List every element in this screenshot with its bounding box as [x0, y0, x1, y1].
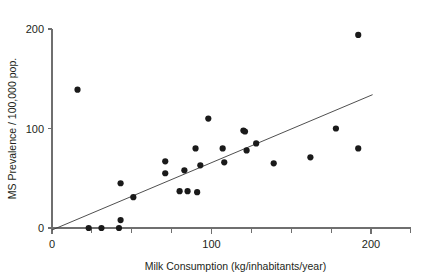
data-point	[117, 217, 123, 223]
y-tick-label-200: 200	[26, 23, 44, 35]
data-points	[74, 32, 361, 231]
data-point	[333, 125, 339, 131]
y-axis-title: MS Prevalence / 100,000 pop.	[6, 58, 18, 199]
data-point	[355, 32, 361, 38]
x-axis-title: Milk Consumption (kg/inhabitants/year)	[145, 260, 327, 272]
data-point	[86, 225, 92, 231]
data-point	[194, 189, 200, 195]
data-point	[242, 128, 248, 134]
axes	[48, 29, 411, 234]
data-point	[162, 158, 168, 164]
trendline	[52, 95, 373, 230]
data-point	[253, 140, 259, 146]
x-tick-label-200: 200	[362, 238, 380, 250]
x-tick-label-100: 100	[202, 238, 220, 250]
data-point	[184, 188, 190, 194]
data-point	[307, 154, 313, 160]
data-point	[205, 115, 211, 121]
data-point	[243, 147, 249, 153]
data-point	[117, 180, 123, 186]
y-tick-label-0: 0	[38, 222, 44, 234]
plot-canvas: 01002000100200Milk Consumption (kg/inhab…	[0, 0, 432, 276]
data-point	[162, 170, 168, 176]
data-point	[221, 159, 227, 165]
data-point	[220, 145, 226, 151]
data-point	[181, 167, 187, 173]
data-point	[74, 87, 80, 93]
y-tick-label-100: 100	[26, 123, 44, 135]
data-point	[116, 225, 122, 231]
data-point	[130, 194, 136, 200]
data-point	[98, 225, 104, 231]
data-point	[355, 145, 361, 151]
data-point	[192, 145, 198, 151]
regression-line	[52, 95, 373, 230]
data-point	[271, 160, 277, 166]
data-point	[177, 188, 183, 194]
x-tick-label-0: 0	[49, 238, 55, 250]
data-point	[197, 162, 203, 168]
scatter-plot-figure: 01002000100200Milk Consumption (kg/inhab…	[0, 0, 432, 276]
